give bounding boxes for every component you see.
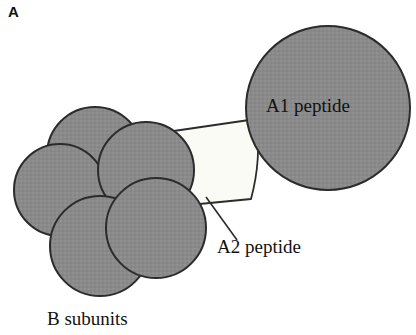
toxin-structure-diagram <box>0 0 416 335</box>
figure-panel: A A1 peptide A2 peptide B subunits <box>0 0 416 335</box>
a2-leader-line <box>206 197 237 240</box>
a2-peptide-label: A2 peptide <box>217 237 301 256</box>
b-subunit-circle <box>106 178 206 278</box>
b-subunits-label: B subunits <box>47 309 128 328</box>
a1-peptide-label: A1 peptide <box>266 96 350 115</box>
